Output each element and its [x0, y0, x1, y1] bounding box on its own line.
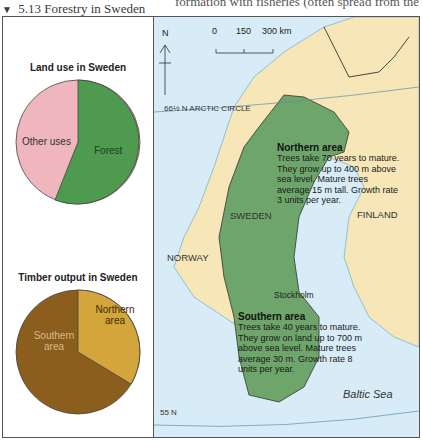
- southern-area-title: Southern area: [238, 311, 362, 322]
- stockholm-label: Stockholm: [274, 290, 314, 300]
- lat-55-label: 55 N: [160, 408, 177, 417]
- figure-caption: ▼ 5.13 Forestry in Sweden: [2, 1, 145, 17]
- northern-area-title: Northern area: [277, 142, 399, 153]
- baltic-sea-label: Baltic Sea: [343, 388, 393, 400]
- southern-area-label: Southern area: [28, 330, 80, 352]
- land-use-title: Land use in Sweden: [3, 62, 153, 73]
- scale-150: 150: [236, 26, 251, 36]
- figure-number: 5.13: [18, 1, 41, 16]
- scale-300km: 300 km: [262, 26, 292, 36]
- figure-title: Forestry in Sweden: [44, 1, 145, 16]
- southern-line: They grow on land up to 700 m: [238, 333, 362, 344]
- forest-label: Forest: [94, 145, 122, 156]
- northern-line: Trees take 70 years to mature.: [277, 153, 399, 164]
- northern-line: They grow up to 400 m above: [277, 164, 399, 175]
- southern-line: Trees take 40 years to mature.: [238, 322, 362, 333]
- southern-line: units per year.: [238, 364, 362, 375]
- timber-output-title: Timber output in Sweden: [3, 272, 153, 283]
- northern-line: average 15 m tall. Growth rate: [277, 185, 399, 196]
- sweden-label: SWEDEN: [230, 210, 272, 221]
- northern-area-label: Northern area: [90, 304, 140, 326]
- southern-line: average 30 m. Growth rate 8: [238, 354, 362, 365]
- finland-label: FINLAND: [357, 209, 398, 220]
- other-uses-label: Other uses: [22, 136, 71, 147]
- northern-line: sea level. Mature trees: [277, 174, 399, 185]
- southern-line: above sea level. Mature trees: [238, 343, 362, 354]
- norway-label: NORWAY: [167, 252, 209, 263]
- northern-area-note: Northern area Trees take 70 years to mat…: [277, 142, 399, 206]
- arctic-circle-label: 66½ N ARCTIC CIRCLE: [164, 104, 251, 113]
- scale-zero: 0: [212, 26, 217, 36]
- northern-line: 3 units per year.: [277, 195, 399, 206]
- triangle-marker-icon: ▼: [2, 4, 12, 15]
- southern-area-note: Southern area Trees take 40 years to mat…: [238, 311, 362, 375]
- cutoff-body-text: formation with fisheries (often spread f…: [175, 0, 419, 10]
- north-arrow-label: N: [162, 28, 169, 38]
